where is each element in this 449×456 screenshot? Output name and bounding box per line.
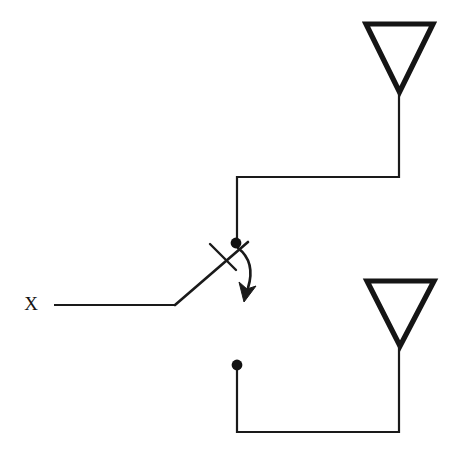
switch-throw-arrow-head-icon	[239, 282, 256, 302]
lower-feed-wire	[237, 346, 399, 432]
switch-blade[interactable]	[175, 242, 248, 305]
upper-contact-node-dot	[231, 238, 242, 249]
input-terminal-label: X	[24, 293, 38, 314]
lower-contact-node-dot	[232, 360, 243, 371]
schematic-diagram-canvas: X	[0, 0, 449, 456]
upper-antenna-triangle-icon	[366, 24, 433, 92]
lower-antenna-triangle-icon	[367, 281, 434, 346]
switch-throw-arrow-curve-icon	[238, 248, 250, 288]
schematic-svg: X	[0, 0, 449, 456]
upper-feed-wire	[237, 92, 399, 243]
